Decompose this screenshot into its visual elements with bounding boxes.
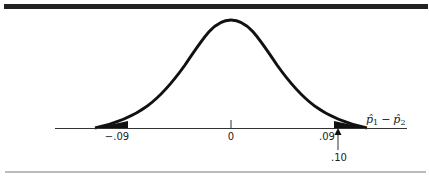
tick-label-neg: −.09 [105, 131, 129, 142]
axis-variable-label: p̂1−p̂2 [366, 113, 406, 127]
normal-distribution-chart: −.09 0 .09 .10 p̂1−p̂2 [0, 0, 429, 177]
tick-label-zero: 0 [228, 131, 234, 142]
axis-sub1: 1 [373, 118, 378, 127]
axis-sub2: 2 [400, 118, 405, 127]
tick-label-pos: .09 [319, 131, 335, 142]
axis-minus: − [381, 113, 390, 126]
bell-curve [95, 20, 367, 128]
observed-value-label: .10 [331, 152, 347, 163]
top-rule [4, 4, 428, 9]
